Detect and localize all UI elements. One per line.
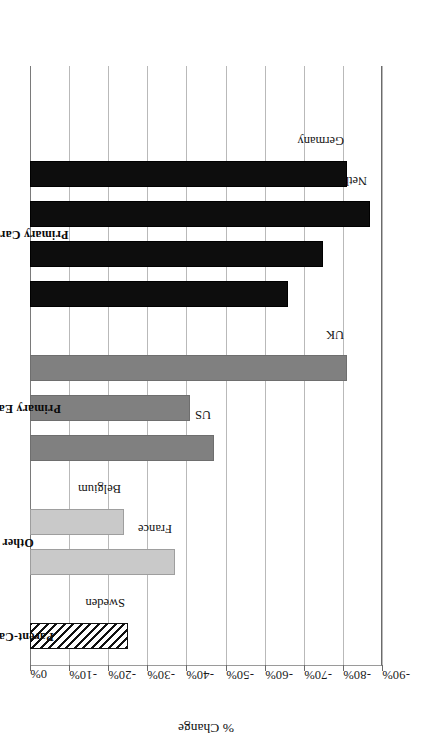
- bar-label: Germany: [297, 133, 344, 148]
- bar-netherlands: [30, 201, 370, 227]
- group-label-parent-carer: Parent-Carer: [0, 629, 54, 644]
- bar-label: France: [138, 521, 172, 536]
- bar-luxembourg: [30, 241, 323, 267]
- y-axis-tick-label: -80%: [343, 667, 371, 682]
- bar-austria: [30, 281, 288, 307]
- y-axis-tick-label: -90%: [382, 667, 410, 682]
- bar-germany: [30, 161, 347, 187]
- y-axis-tick-label: -40%: [186, 667, 214, 682]
- y-axis-title: % Change: [178, 720, 234, 736]
- bar-uk: [30, 355, 347, 381]
- bar-us: [30, 435, 214, 461]
- bar-label: Belgium: [78, 481, 121, 496]
- bar-label: US: [195, 407, 211, 422]
- bar-france: [30, 549, 175, 575]
- group-label-primary-caregiver: Primary Caregiver: [0, 227, 68, 242]
- y-axis-tick-label: -60%: [265, 667, 293, 682]
- bar-label: UK: [326, 327, 344, 342]
- bar-belgium: [30, 509, 124, 535]
- y-axis-tick-label: -10%: [69, 667, 97, 682]
- y-axis-tick-label: -30%: [147, 667, 175, 682]
- y-axis-tick-label: -50%: [226, 667, 254, 682]
- y-axis-tick-label: -20%: [108, 667, 136, 682]
- gridline: [382, 66, 383, 665]
- bar-label: Sweden: [85, 595, 125, 610]
- group-label-other: Other: [2, 535, 34, 550]
- y-axis-tick-label: -70%: [304, 667, 332, 682]
- y-axis-tick-label: 0%: [30, 667, 47, 682]
- plot-area: 0%-10%-20%-30%-40%-50%-60%-70%-80%-90%Sw…: [30, 66, 382, 666]
- group-label-primary-earner: Primary Earner: [0, 401, 61, 416]
